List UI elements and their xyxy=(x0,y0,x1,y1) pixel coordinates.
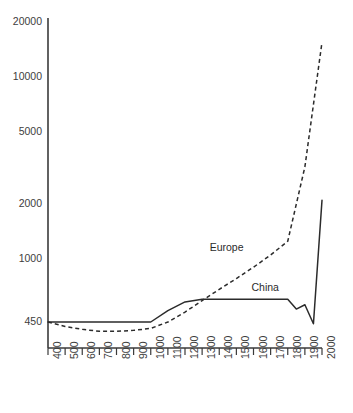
x-axis-tick-label: 1300 xyxy=(206,336,216,359)
y-axis-tick-label: 1000 xyxy=(2,253,42,264)
x-axis-tick-label: 1600 xyxy=(258,336,268,359)
chart-container: 4501000200050001000020000 40050060070080… xyxy=(0,0,353,413)
axes-group xyxy=(48,18,322,355)
y-axis-tick-label: 5000 xyxy=(2,126,42,137)
series-line-china xyxy=(48,200,322,324)
series-line-europe xyxy=(48,42,322,331)
x-axis-tick-label: 1500 xyxy=(240,336,250,359)
x-axis-tick-label: 800 xyxy=(121,341,131,359)
y-axis-tick-label: 10000 xyxy=(2,71,42,82)
x-axis-tick-label: 400 xyxy=(52,341,62,359)
x-axis-tick-label: 1900 xyxy=(309,336,319,359)
x-axis-tick-label: 500 xyxy=(69,341,79,359)
x-axis-tick-label: 1700 xyxy=(275,336,285,359)
series-label-europe: Europe xyxy=(210,242,244,253)
series-label-china: China xyxy=(251,282,278,293)
x-axis-tick-label: 1000 xyxy=(155,336,165,359)
x-axis-tick-label: 1100 xyxy=(172,336,182,359)
y-axis-tick-label: 20000 xyxy=(2,16,42,27)
x-axis-tick-label: 1400 xyxy=(223,336,233,359)
x-axis-tick-label: 600 xyxy=(86,341,96,359)
y-axis-tick-label: 2000 xyxy=(2,198,42,209)
x-axis-tick-label: 1800 xyxy=(292,336,302,359)
x-axis-tick-label: 700 xyxy=(103,341,113,359)
x-axis-tick-label: 2000 xyxy=(326,336,336,359)
x-axis-tick-label: 1200 xyxy=(189,336,199,359)
y-axis-tick-label: 450 xyxy=(2,316,42,327)
x-axis-tick-label: 900 xyxy=(138,341,148,359)
